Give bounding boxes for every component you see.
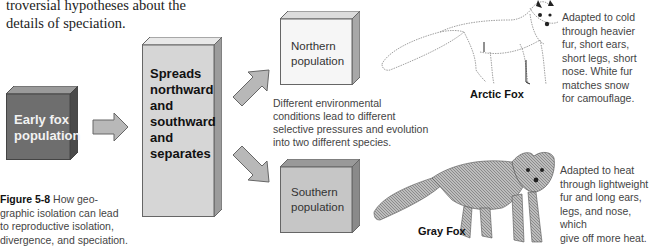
intro-paragraph: troversial hypotheses about the details … [6,0,186,32]
intro-line-1: troversial hypotheses about the [6,0,186,14]
gray-fox-illustration [372,148,562,248]
gray-fox-description: Adapted to heat through lightweight fur … [560,164,656,245]
spreads-label: Spreads northward and southward and sepa… [150,66,216,162]
southern-label: Southern population [291,185,344,215]
northern-population-box: Northern population [280,11,360,85]
arctic-fox-label: Arctic Fox [470,88,524,100]
arrow-down-right-icon [232,145,272,185]
early-fox-label: Early fox population [14,112,80,144]
gray-fox-label: Gray Fox [418,225,466,237]
arctic-fox-description: Adapted to cold through heavier fur, sho… [562,11,637,106]
early-fox-population-box: Early fox population [6,86,78,160]
arrow-right-icon [92,112,130,142]
figure-number: Figure 5-8 [0,193,50,205]
arctic-fox-illustration [380,0,560,92]
environment-note: Different environmental conditions lead … [273,97,428,149]
spreads-box: Spreads northward and southward and sepa… [142,37,222,217]
northern-label: Northern population [291,39,344,69]
southern-population-box: Southern population [280,159,360,233]
figure-caption: Figure 5-8 How geo- graphic isolation ca… [0,193,128,247]
intro-line-2: details of speciation. [6,14,186,32]
caption-line-1: Figure 5-8 How geo- [0,193,128,207]
arrow-up-right-icon [232,68,272,108]
